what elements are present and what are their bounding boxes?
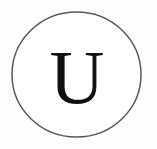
badge-letter-text: U	[50, 35, 105, 119]
monogram-canvas: U	[0, 0, 157, 149]
circular-letter-badge: U	[0, 0, 157, 149]
